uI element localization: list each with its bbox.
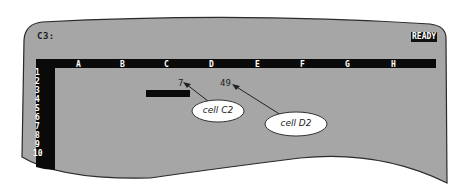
cell-cursor-C3[interactable] [146, 90, 190, 97]
row-header-5[interactable]: 5 [35, 105, 40, 113]
callout-label-D2: cell D2 [265, 118, 327, 128]
row-header-8[interactable]: 8 [35, 132, 40, 140]
column-header-d[interactable]: D [209, 60, 214, 69]
column-header-f[interactable]: F [300, 60, 305, 69]
column-header-c[interactable]: C [164, 60, 169, 69]
monitor-screen [0, 0, 460, 190]
column-header-h[interactable]: H [391, 60, 396, 69]
row-header-1[interactable]: 1 [35, 69, 40, 77]
cell-C2[interactable]: 7 [178, 78, 183, 88]
row-header-9[interactable]: 9 [35, 141, 40, 149]
row-header-2[interactable]: 2 [35, 78, 40, 86]
column-header-g[interactable]: G [345, 60, 350, 69]
column-header-b[interactable]: B [120, 60, 125, 69]
callout-label-C2: cell C2 [192, 105, 244, 115]
row-header-3[interactable]: 3 [35, 87, 40, 95]
screen-surface [22, 17, 447, 183]
column-header-bar [36, 59, 436, 68]
row-header-4[interactable]: 4 [35, 96, 40, 104]
column-header-a[interactable]: A [76, 60, 81, 69]
mode-indicator: READY [411, 32, 437, 42]
cell-D2[interactable]: 49 [220, 78, 231, 88]
row-header-7[interactable]: 7 [35, 123, 40, 131]
row-header-6[interactable]: 6 [35, 114, 40, 122]
cell-reference-indicator: C3: [37, 31, 55, 41]
row-header-10[interactable]: 10 [33, 150, 43, 158]
column-header-e[interactable]: E [255, 60, 260, 69]
